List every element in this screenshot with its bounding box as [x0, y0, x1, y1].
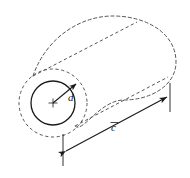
length-dimension-line [66, 97, 167, 151]
cylinder-bottom-edge-line [75, 77, 168, 126]
length-label-group: c [111, 121, 119, 133]
cylinder-diagram-canvas: d c [0, 0, 190, 178]
cylinder-diagram-figure: d c [0, 0, 190, 178]
cylinder-body-group [33, 16, 176, 127]
diameter-label: d [68, 91, 74, 103]
cylinder-top-edge-line [33, 22, 137, 76]
cylinder-far-end-face [33, 16, 176, 127]
